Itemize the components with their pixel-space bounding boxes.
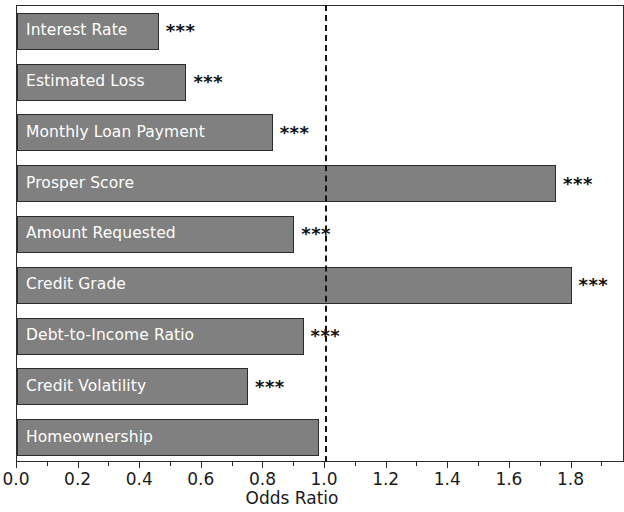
bar-label: Debt-to-Income Ratio: [26, 328, 194, 344]
bar: Monthly Loan Payment: [17, 114, 273, 151]
bar: Amount Requested: [17, 216, 294, 253]
x-axis-minor-tick: [232, 462, 233, 466]
significance-marker: ***: [193, 73, 223, 91]
x-axis-label-text: Odds Ratio: [246, 488, 339, 508]
x-axis-tick-label: 0.2: [64, 469, 91, 489]
bar-row: Credit Volatility***: [17, 361, 623, 412]
x-axis-tick-label: 1.0: [311, 469, 338, 489]
x-axis-tick-label: 1.8: [557, 469, 584, 489]
bar-label: Amount Requested: [26, 227, 176, 243]
x-axis-tick: [78, 462, 79, 468]
x-axis-tick-label: 0.6: [187, 469, 214, 489]
x-axis-tick: [571, 462, 572, 468]
x-axis-tick: [262, 462, 263, 468]
bar: Homeownership: [17, 419, 319, 456]
bar-label: Monthly Loan Payment: [26, 125, 205, 141]
bar-label: Prosper Score: [26, 176, 134, 192]
odds-ratio-reference-line: [325, 5, 327, 462]
significance-marker: ***: [563, 175, 593, 193]
bar-row: Monthly Loan Payment***: [17, 108, 623, 159]
bar-label: Homeownership: [26, 430, 153, 446]
x-axis-tick: [139, 462, 140, 468]
x-axis-minor-tick: [478, 462, 479, 466]
x-axis-tick-label: 0.0: [2, 469, 29, 489]
significance-marker: ***: [166, 22, 196, 40]
bar: Estimated Loss: [17, 64, 186, 101]
bar-row: Debt-to-Income Ratio***: [17, 311, 623, 362]
x-axis-tick-label: 1.4: [434, 469, 461, 489]
bar: Debt-to-Income Ratio: [17, 318, 304, 355]
bar: Credit Volatility: [17, 368, 248, 405]
bar-row: Estimated Loss***: [17, 57, 623, 108]
x-axis-minor-tick: [601, 462, 602, 466]
plot-area: Interest Rate***Estimated Loss***Monthly…: [16, 5, 624, 462]
x-axis-tick: [447, 462, 448, 468]
bar-label: Estimated Loss: [26, 74, 145, 90]
x-axis-tick-label: 0.8: [249, 469, 276, 489]
significance-marker: ***: [280, 124, 310, 142]
bar-row: Prosper Score***: [17, 158, 623, 209]
bar-label: Interest Rate: [26, 24, 128, 40]
x-axis-tick: [386, 462, 387, 468]
x-axis-minor-tick: [416, 462, 417, 466]
x-axis-tick: [16, 462, 17, 468]
significance-marker: ***: [255, 378, 285, 396]
bar-row: Interest Rate***: [17, 6, 623, 57]
x-axis-tick-label: 1.2: [372, 469, 399, 489]
bar: Prosper Score: [17, 165, 556, 202]
x-axis-label: Odds Ratio: [0, 488, 600, 508]
x-axis-minor-tick: [170, 462, 171, 466]
x-axis-tick-label: 0.4: [126, 469, 153, 489]
bars-layer: Interest Rate***Estimated Loss***Monthly…: [17, 6, 623, 461]
bar: Credit Grade: [17, 267, 572, 304]
bar-label: Credit Volatility: [26, 379, 146, 395]
x-axis-tick: [201, 462, 202, 468]
x-axis-minor-tick: [293, 462, 294, 466]
x-axis-tick: [509, 462, 510, 468]
bar-row: Credit Grade***: [17, 260, 623, 311]
bar-label: Credit Grade: [26, 278, 126, 294]
x-axis-tick: [324, 462, 325, 468]
bar-row: Homeownership: [17, 412, 623, 463]
x-axis-minor-tick: [47, 462, 48, 466]
x-axis-minor-tick: [108, 462, 109, 466]
x-axis-minor-tick: [540, 462, 541, 466]
significance-marker: ***: [579, 276, 609, 294]
x-axis-minor-tick: [355, 462, 356, 466]
bar-row: Amount Requested***: [17, 209, 623, 260]
bar: Interest Rate: [17, 13, 159, 50]
x-axis-tick-label: 1.6: [495, 469, 522, 489]
